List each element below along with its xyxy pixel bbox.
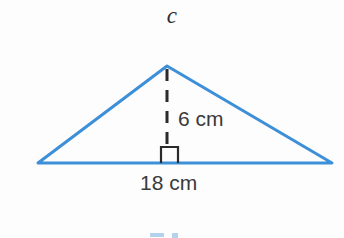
base-measurement-label: 18 cm: [140, 172, 197, 193]
cropped-bottom-marks: [150, 233, 178, 238]
height-measurement-label: 6 cm: [178, 108, 224, 129]
triangle-drawing: [0, 0, 344, 238]
right-angle-marker: [161, 147, 178, 163]
geometry-figure: c 6 cm 18 cm: [0, 0, 344, 238]
